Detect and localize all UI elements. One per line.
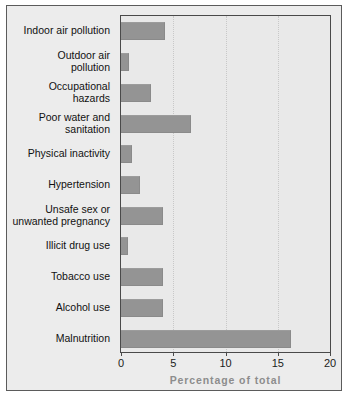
category-label: Outdoor air pollution <box>7 49 115 73</box>
category-label: Tobacco use <box>7 270 115 282</box>
bars <box>121 16 330 352</box>
tick-mark <box>278 353 279 356</box>
tick-mark <box>226 353 227 356</box>
tick-mark <box>173 353 174 356</box>
figure-frame: Indoor air pollutionOutdoor air pollutio… <box>6 5 342 391</box>
category-label: Indoor air pollution <box>7 24 115 36</box>
tick-label: 0 <box>118 357 124 369</box>
category-label: Physical inactivity <box>7 147 115 159</box>
bar <box>121 84 151 102</box>
x-axis-title: Percentage of total <box>120 374 331 386</box>
bar <box>121 115 191 133</box>
category-label: Alcohol use <box>7 301 115 313</box>
bar <box>121 53 129 71</box>
category-label: Illicit drug use <box>7 239 115 251</box>
tick-label: 5 <box>170 357 176 369</box>
chart-figure: Indoor air pollutionOutdoor air pollutio… <box>0 0 349 398</box>
bar <box>121 207 163 225</box>
category-label: Unsafe sex or unwanted pregnancy <box>7 203 115 227</box>
bar <box>121 176 140 194</box>
category-label: Occupational hazards <box>7 80 115 104</box>
bar <box>121 268 163 286</box>
chart-region: Indoor air pollutionOutdoor air pollutio… <box>7 6 341 390</box>
bar <box>121 299 163 317</box>
x-axis: 05101520 Percentage of total <box>120 353 331 393</box>
tick-label: 10 <box>219 357 231 369</box>
tick-label: 20 <box>324 357 336 369</box>
bar <box>121 22 165 40</box>
category-labels: Indoor air pollutionOutdoor air pollutio… <box>7 15 115 353</box>
category-label: Hypertension <box>7 178 115 190</box>
category-label: Poor water and sanitation <box>7 111 115 135</box>
plot-area <box>120 15 331 353</box>
bar <box>121 237 128 255</box>
bar <box>121 330 291 348</box>
bar <box>121 145 132 163</box>
category-label: Malnutrition <box>7 332 115 344</box>
tick-mark <box>121 353 122 356</box>
tick-label: 15 <box>272 357 284 369</box>
tick-mark <box>330 353 331 356</box>
